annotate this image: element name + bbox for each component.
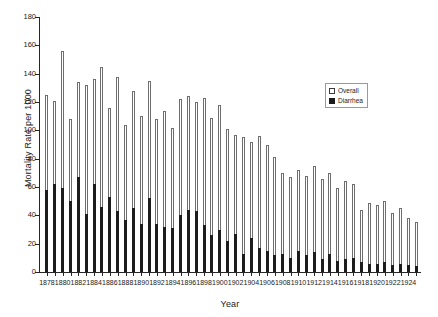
bar-diarrhea-1878 [45,190,48,272]
bar-overall-1923 [399,208,402,272]
x-tick-label-1908: 1908 [275,278,291,287]
x-tick-label-1920: 1920 [369,278,385,287]
bar-overall-1903 [242,137,245,272]
x-tick-label-1924: 1924 [401,278,417,287]
bar-diarrhea-1901 [226,241,229,272]
bar-diarrhea-1883 [85,214,88,272]
mortality-rate-bar-chart: Mortality Rate per 1000 0204060801001201… [0,0,438,317]
bar-diarrhea-1893 [163,227,166,272]
x-tick-1888 [126,273,127,276]
x-tick-1884 [94,273,95,276]
legend-label-overall: Overall [338,87,359,95]
bar-overall-1920 [376,205,379,272]
x-tick-label-1914: 1914 [322,278,338,287]
x-tick-1913 [322,273,323,276]
y-tick-label: 120 [23,97,36,106]
x-tick-label-1922: 1922 [385,278,401,287]
bar-diarrhea-1918 [360,262,363,272]
bar-overall-1924 [407,218,410,272]
x-tick-1891 [149,273,150,276]
x-tick-1896 [188,273,189,276]
x-tick-label-1880: 1880 [55,278,71,287]
bar-overall-1925 [415,222,418,272]
legend-swatch-diarrhea-icon [329,98,335,104]
bar-diarrhea-1882 [77,177,80,272]
bar-diarrhea-1921 [383,262,386,272]
bar-diarrhea-1892 [155,224,158,272]
x-tick-label-1902: 1902 [228,278,244,287]
x-tick-1901 [228,273,229,276]
bar-diarrhea-1899 [210,235,213,272]
x-tick-1916 [346,273,347,276]
bar-diarrhea-1903 [242,254,245,272]
bar-diarrhea-1879 [53,184,56,272]
x-tick-1893 [165,273,166,276]
bar-diarrhea-1898 [203,225,206,272]
x-tick-1904 [251,273,252,276]
bar-diarrhea-1920 [376,264,379,273]
x-tick-1915 [338,273,339,276]
bar-diarrhea-1923 [399,264,402,273]
bar-diarrhea-1905 [258,248,261,272]
bar-diarrhea-1889 [132,208,135,272]
bar-diarrhea-1891 [148,198,151,272]
bar-overall-1919 [368,203,371,272]
x-tick-1887 [118,273,119,276]
x-tick-label-1900: 1900 [212,278,228,287]
x-tick-label-1894: 1894 [165,278,181,287]
x-tick-1906 [267,273,268,276]
x-tick-1905 [259,273,260,276]
bar-diarrhea-1913 [321,259,324,272]
bar-diarrhea-1911 [305,255,308,272]
x-tick-1903 [243,273,244,276]
x-tick-1880 [63,273,64,276]
x-tick-label-1898: 1898 [196,278,212,287]
y-tick-label: 100 [23,125,36,134]
x-tick-1914 [330,273,331,276]
bar-diarrhea-1890 [140,224,143,272]
x-tick-1921 [385,273,386,276]
x-tick-1902 [236,273,237,276]
bar-overall-1915 [336,188,339,272]
x-tick-label-1906: 1906 [259,278,275,287]
bar-diarrhea-1908 [281,254,284,272]
x-tick-1925 [416,273,417,276]
y-tick-label: 60 [28,182,36,191]
bar-diarrhea-1902 [234,234,237,272]
bar-diarrhea-1900 [218,230,221,273]
bar-diarrhea-1888 [124,220,127,272]
x-tick-1894 [173,273,174,276]
bar-series-container [40,17,421,272]
y-tick-label: 20 [28,239,36,248]
bar-diarrhea-1916 [344,259,347,272]
bar-diarrhea-1880 [61,188,64,272]
legend-swatch-overall-icon [329,88,335,94]
x-tick-1911 [306,273,307,276]
x-tick-label-1896: 1896 [181,278,197,287]
x-tick-label-1918: 1918 [354,278,370,287]
x-tick-1922 [393,273,394,276]
bar-diarrhea-1885 [100,207,103,272]
bar-diarrhea-1909 [289,258,292,272]
x-tick-1890 [141,273,142,276]
bar-diarrhea-1895 [179,215,182,272]
bar-diarrhea-1884 [93,184,96,272]
y-tick-label: 180 [23,12,36,21]
y-tick-label: 80 [28,154,36,163]
x-tick-label-1882: 1882 [71,278,87,287]
bar-diarrhea-1914 [328,254,331,272]
y-tick-label: 0 [32,267,36,276]
x-tick-1878 [47,273,48,276]
x-tick-1912 [314,273,315,276]
bar-overall-1922 [391,213,394,273]
x-tick-1919 [369,273,370,276]
legend-label-diarrhea: Diarrhea [338,97,363,105]
x-tick-label-1892: 1892 [149,278,165,287]
x-tick-1898 [204,273,205,276]
x-tick-label-1888: 1888 [118,278,134,287]
bar-diarrhea-1910 [297,251,300,272]
bar-diarrhea-1896 [187,210,190,272]
bar-diarrhea-1887 [116,211,119,272]
bar-diarrhea-1904 [250,238,253,272]
x-tick-1918 [361,273,362,276]
